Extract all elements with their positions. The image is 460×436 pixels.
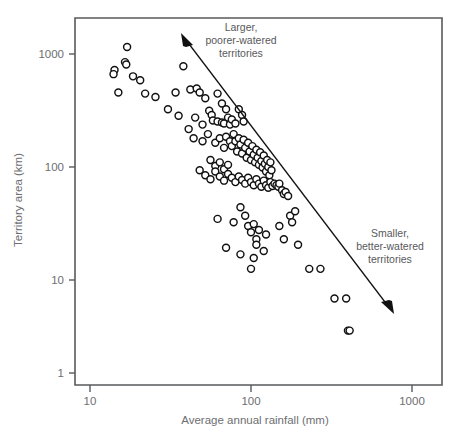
y-axis-tick-labels: 1000 100 10 1 [38,48,64,379]
plot-frame [75,18,442,385]
scatter-plot-canvas: 1000 100 10 1 10 100 1000 Average annual… [0,0,460,436]
data-point [199,121,206,128]
plot-border [75,18,442,385]
data-point [223,244,230,251]
data-point [124,44,131,51]
x-axis-tick-labels: 10 100 1000 [84,395,425,407]
data-point [242,212,249,219]
data-point [248,265,255,272]
data-point [268,167,275,174]
y-axis-title: Territory area (km) [12,153,24,247]
data-point [180,63,187,70]
data-point [190,135,197,142]
data-point [192,114,199,121]
x-axis-title: Average annual rainfall (mm) [181,414,329,426]
data-point [164,106,171,113]
data-point [185,126,192,133]
data-point [253,241,260,248]
data-point [263,231,270,238]
upper-annotation-line3: territories [219,47,263,59]
upper-annotation: Larger, poorer-watered territories [205,21,276,59]
data-point [214,90,221,97]
data-point [202,95,209,102]
data-point [260,247,267,254]
data-point [276,223,283,230]
data-point [250,255,257,262]
data-point [230,219,237,226]
x-tick-label-1000: 1000 [399,395,425,407]
x-tick-label-100: 100 [241,395,260,407]
data-point [267,159,274,166]
trend-arrow-head-upper [181,33,193,47]
data-point [199,138,206,145]
data-point [196,89,203,96]
data-point [237,251,244,258]
data-point [255,227,262,234]
y-axis-ticks [69,54,75,373]
upper-annotation-line2: poorer-watered [205,34,276,46]
data-point [221,144,228,151]
data-point [175,112,182,119]
data-point [207,176,214,183]
data-point [130,73,137,80]
y-tick-label-100: 100 [45,161,64,173]
lower-annotation-line2: better-watered [356,240,424,252]
data-point [142,90,149,97]
data-point [223,106,230,113]
data-point [295,241,302,248]
data-point [292,208,299,215]
data-point [285,192,292,199]
lower-annotation: Smaller, better-watered territories [356,227,424,265]
y-tick-label-1000: 1000 [38,48,64,60]
data-point-layer [110,44,353,335]
data-point [214,215,221,222]
y-tick-label-10: 10 [51,274,64,286]
scatter-plot-figure: 1000 100 10 1 10 100 1000 Average annual… [0,0,460,436]
data-point [306,265,313,272]
data-point [280,236,287,243]
data-point [123,61,130,68]
data-point [115,89,122,96]
data-point [232,120,239,127]
data-point [250,221,257,228]
data-point [152,94,159,101]
data-point [237,204,244,211]
data-point [172,89,179,96]
data-point [137,77,144,84]
data-point [289,219,296,226]
data-point [331,295,338,302]
data-point [221,177,228,184]
x-axis-ticks [90,385,412,392]
lower-annotation-line3: territories [368,253,412,265]
upper-annotation-line1: Larger, [225,21,258,33]
data-point [248,229,255,236]
data-point [110,71,117,78]
data-point [204,131,211,138]
trend-arrow-head-lower [381,300,394,314]
data-point [225,161,232,168]
data-point [317,265,324,272]
lower-annotation-line1: Smaller, [371,227,409,239]
y-tick-label-1: 1 [58,367,64,379]
data-point [346,327,353,334]
x-tick-label-10: 10 [84,395,97,407]
data-point [343,295,350,302]
data-point [216,159,223,166]
